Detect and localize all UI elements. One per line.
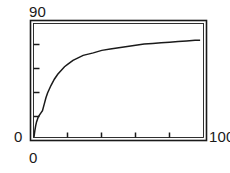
data-series-curve — [34, 40, 200, 137]
y-axis-min-label: 0 — [14, 129, 23, 144]
x-axis-min-label: 0 — [29, 150, 38, 165]
plot-area — [0, 0, 230, 173]
x-axis-ticks — [68, 133, 170, 138]
plot-frame — [31, 21, 207, 141]
y-axis-ticks — [34, 45, 40, 117]
y-axis-max-label: 90 — [29, 4, 46, 19]
x-axis-max-label: 100 — [209, 129, 230, 144]
chart-figure: 90 0 0 100 — [0, 0, 230, 173]
plot-frame-inner — [34, 24, 204, 138]
